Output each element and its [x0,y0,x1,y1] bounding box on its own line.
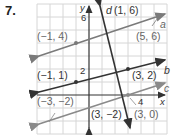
point-a2-label: (5, 6) [136,30,161,42]
x-tick-4: 4 [138,96,143,107]
line-d-label: d [106,4,113,16]
line-c-label: c [164,82,170,94]
point-b1 [74,80,78,84]
point-c2-label: (3, 0) [134,108,159,120]
y-tick-6: 6 [81,12,86,23]
point-d2-label: (3, −2) [91,108,122,120]
x-axis-label: x [159,96,166,107]
line-b-label: b [164,64,170,76]
point-b2 [126,67,130,71]
point-d1-label: (1, 6) [114,4,139,16]
point-a1 [74,41,78,45]
point-b1-label: (−1, 1) [37,69,68,81]
point-b2-label: (3, 2) [132,69,157,81]
point-c2 [126,93,130,97]
y-tick-2: 2 [80,65,85,76]
point-c1-label: (−3, −2) [37,95,74,107]
line-a-label: a [160,18,166,30]
point-a1-label: (−1, 4) [37,30,68,42]
coordinate-graph: y 6 2 4 x d (1, 6) a (5, 6) (−1, 4) (−1,… [0,0,179,139]
